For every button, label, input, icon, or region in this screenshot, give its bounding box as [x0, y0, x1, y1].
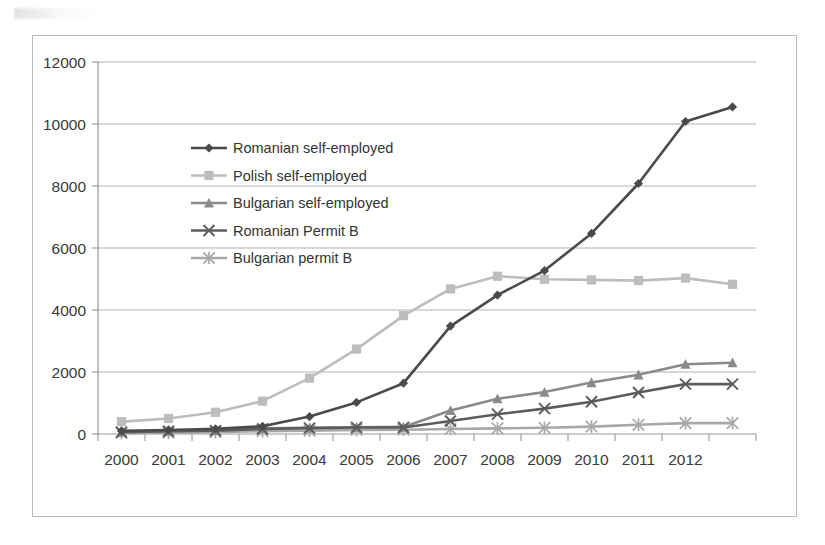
data-point-marker-square — [117, 417, 126, 426]
legend-item[interactable]: Romanian self-employed — [191, 140, 393, 156]
data-point-marker-square — [540, 275, 549, 284]
y-axis-tick-label: 0 — [77, 426, 86, 443]
data-point-marker-diamond — [204, 143, 213, 152]
data-point-marker-square — [681, 273, 690, 282]
series-polish-self-employed — [117, 272, 737, 427]
data-point-marker-square — [399, 311, 408, 320]
series-romanian-self-employed — [117, 102, 737, 435]
data-point-marker-square — [211, 408, 220, 417]
data-point-marker-square — [587, 275, 596, 284]
x-axis-tick-label: 2012 — [668, 451, 702, 468]
y-axis-tick-label: 6000 — [52, 240, 87, 257]
x-axis-tick-label: 2006 — [386, 451, 420, 468]
legend-label: Romanian Permit B — [233, 223, 359, 239]
x-axis-tick-label: 2009 — [527, 451, 561, 468]
legend-label: Romanian self-employed — [233, 140, 393, 156]
series-line — [122, 107, 733, 431]
legend-label: Bulgarian self-employed — [233, 195, 389, 211]
legend-item[interactable]: Bulgarian permit B — [191, 250, 352, 266]
chart-legend: Romanian self-employedPolish self-employ… — [191, 140, 393, 266]
chart-canvas: 0200040006000800010000120002000200120022… — [33, 36, 798, 518]
legend-item[interactable]: Polish self-employed — [191, 168, 367, 184]
legend-item[interactable]: Romanian Permit B — [191, 223, 359, 239]
data-point-marker-diamond — [352, 398, 361, 407]
data-point-marker-square — [352, 344, 361, 353]
x-axis-tick-label: 2001 — [151, 451, 185, 468]
data-point-marker-square — [634, 276, 643, 285]
y-axis-tick-label: 12000 — [43, 54, 86, 71]
series-line — [122, 276, 733, 421]
x-axis-tick-label: 2002 — [198, 451, 232, 468]
data-point-marker-square — [305, 374, 314, 383]
data-point-marker-diamond — [728, 102, 737, 111]
data-point-marker-square — [493, 272, 502, 281]
x-axis-tick-label: 2003 — [245, 451, 279, 468]
x-axis-tick-label: 2005 — [339, 451, 373, 468]
y-axis-tick-label: 4000 — [52, 302, 87, 319]
x-axis-tick-label: 2004 — [292, 451, 327, 468]
line-chart: 0200040006000800010000120002000200120022… — [33, 36, 798, 518]
legend-item[interactable]: Bulgarian self-employed — [191, 195, 389, 211]
chart-frame: 0200040006000800010000120002000200120022… — [32, 35, 797, 517]
data-point-marker-square — [164, 414, 173, 423]
data-point-marker-square — [258, 397, 267, 406]
y-axis-tick-label: 10000 — [43, 116, 86, 133]
data-point-marker-diamond — [305, 412, 314, 421]
data-point-marker-square — [204, 171, 213, 180]
data-point-marker-square — [728, 280, 737, 289]
scan-artifact — [14, 8, 106, 19]
data-point-marker-square — [446, 284, 455, 293]
y-axis-tick-label: 2000 — [52, 364, 87, 381]
x-axis-tick-label: 2008 — [480, 451, 514, 468]
legend-label: Polish self-employed — [233, 168, 367, 184]
x-axis-tick-label: 2000 — [104, 451, 139, 468]
y-axis-tick-label: 8000 — [52, 178, 87, 195]
legend-label: Bulgarian permit B — [233, 250, 352, 266]
x-axis-tick-label: 2010 — [574, 451, 609, 468]
x-axis-tick-label: 2011 — [622, 451, 655, 468]
x-axis-tick-label: 2007 — [433, 451, 467, 468]
